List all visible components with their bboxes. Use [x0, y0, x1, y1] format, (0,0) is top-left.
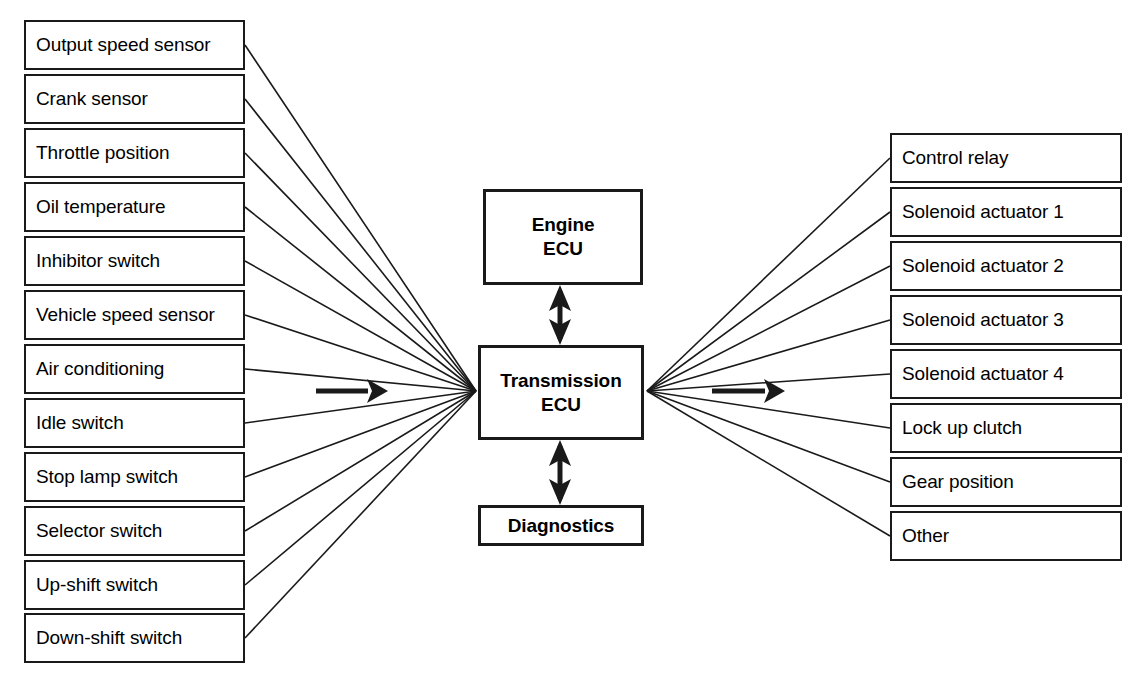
output-connector-7 [647, 391, 890, 536]
output-node-solenoid-actuator-4: Solenoid actuator 4 [890, 349, 1122, 399]
output-node-other: Other [890, 511, 1122, 561]
output-connector-2 [647, 266, 890, 391]
output-node-lock-up-clutch: Lock up clutch [890, 403, 1122, 453]
input-connector-2 [245, 153, 476, 391]
output-node-solenoid-actuator-3: Solenoid actuator 3 [890, 295, 1122, 345]
input-node-output-speed-sensor: Output speed sensor [24, 20, 245, 70]
node-label: Oil temperature [36, 196, 165, 218]
node-label: Control relay [902, 147, 1008, 169]
input-node-inhibitor-switch: Inhibitor switch [24, 236, 245, 286]
node-label: Solenoid actuator 3 [902, 309, 1064, 331]
node-label: Throttle position [36, 142, 169, 164]
diagram-canvas: Output speed sensorCrank sensorThrottle … [0, 0, 1136, 678]
output-node-solenoid-actuator-2: Solenoid actuator 2 [890, 241, 1122, 291]
center-node-engine-ecu: Engine ECU [483, 189, 643, 285]
input-connector-0 [245, 45, 476, 391]
center-node-transmission-ecu: Transmission ECU [478, 345, 644, 440]
node-label: Stop lamp switch [36, 466, 178, 488]
input-node-vehicle-speed-sensor: Vehicle speed sensor [24, 290, 245, 340]
node-label: Output speed sensor [36, 34, 211, 56]
input-node-oil-temperature: Oil temperature [24, 182, 245, 232]
input-node-selector-switch: Selector switch [24, 506, 245, 556]
input-connector-1 [245, 99, 476, 391]
center-node-diagnostics: Diagnostics [478, 505, 644, 546]
node-label: Idle switch [36, 412, 124, 434]
input-node-up-shift-switch: Up-shift switch [24, 560, 245, 610]
input-node-air-conditioning: Air conditioning [24, 344, 245, 394]
input-node-stop-lamp-switch: Stop lamp switch [24, 452, 245, 502]
node-label: Diagnostics [508, 514, 615, 538]
node-label: Other [902, 525, 949, 547]
input-connector-8 [245, 391, 476, 477]
node-label: Engine ECU [532, 213, 595, 261]
output-node-gear-position: Gear position [890, 457, 1122, 507]
node-label: Up-shift switch [36, 574, 158, 596]
input-node-down-shift-switch: Down-shift switch [24, 613, 245, 663]
output-connector-6 [647, 391, 890, 482]
input-node-idle-switch: Idle switch [24, 398, 245, 448]
node-label: Down-shift switch [36, 627, 182, 649]
input-connector-10 [245, 391, 476, 585]
node-label: Selector switch [36, 520, 162, 542]
output-connector-1 [647, 212, 890, 391]
input-node-throttle-position: Throttle position [24, 128, 245, 178]
node-label: Crank sensor [36, 88, 148, 110]
output-node-control-relay: Control relay [890, 133, 1122, 183]
input-connector-lines [245, 45, 476, 638]
node-label: Vehicle speed sensor [36, 304, 215, 326]
output-node-solenoid-actuator-1: Solenoid actuator 1 [890, 187, 1122, 237]
input-connector-7 [245, 391, 476, 423]
input-connector-9 [245, 391, 476, 531]
node-label: Transmission ECU [500, 369, 621, 417]
input-connector-3 [245, 207, 476, 391]
node-label: Gear position [902, 471, 1014, 493]
output-connector-lines [647, 158, 890, 536]
node-label: Solenoid actuator 4 [902, 363, 1064, 385]
node-label: Lock up clutch [902, 417, 1022, 439]
input-connector-11 [245, 391, 476, 638]
node-label: Solenoid actuator 2 [902, 255, 1064, 277]
node-label: Solenoid actuator 1 [902, 201, 1064, 223]
node-label: Air conditioning [36, 358, 164, 380]
node-label: Inhibitor switch [36, 250, 160, 272]
input-node-crank-sensor: Crank sensor [24, 74, 245, 124]
